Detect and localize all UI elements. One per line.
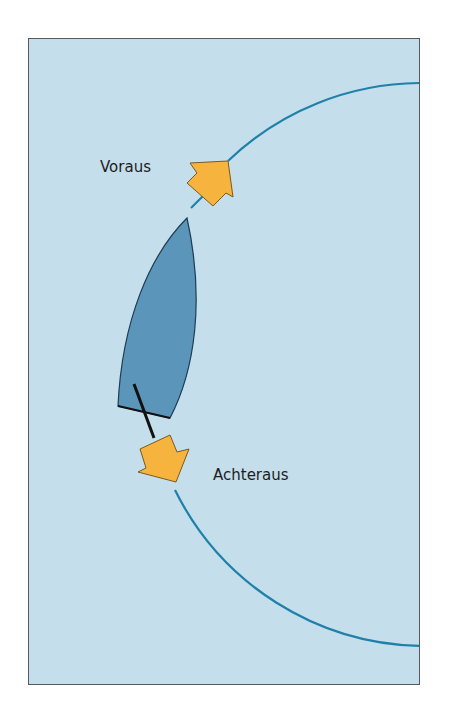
forward-arrow-icon — [187, 161, 233, 206]
turning-circle-arc-lower — [175, 490, 422, 646]
label-voraus: Voraus — [100, 158, 151, 176]
turning-circle-arc-upper-tail — [191, 196, 203, 208]
boat-hull — [118, 218, 196, 418]
diagram-canvas — [0, 0, 458, 723]
backward-arrow-icon — [138, 435, 189, 482]
turning-circle-arc-upper — [228, 83, 422, 161]
label-achteraus: Achteraus — [213, 466, 289, 484]
